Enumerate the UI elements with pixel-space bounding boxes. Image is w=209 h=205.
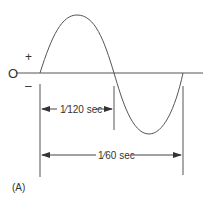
full-cycle-label: 1⁄60 sec bbox=[98, 150, 135, 161]
negative-label: – bbox=[25, 79, 32, 93]
zero-label: O bbox=[8, 66, 18, 81]
sine-wave bbox=[40, 15, 183, 134]
positive-label: + bbox=[25, 50, 32, 64]
half-cycle-label: 1⁄120 sec bbox=[60, 104, 102, 115]
panel-label: (A) bbox=[12, 182, 25, 193]
sine-wave-diagram: O + – 1⁄120 sec 1⁄60 sec (A) bbox=[0, 0, 209, 205]
